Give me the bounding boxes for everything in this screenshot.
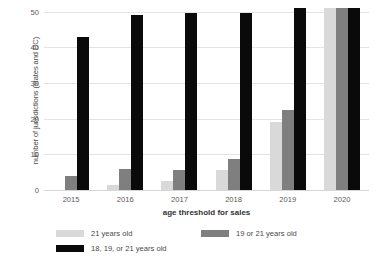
bar <box>173 170 185 190</box>
x-tick-label: 2020 <box>333 195 350 204</box>
bar <box>294 8 306 190</box>
legend-item[interactable]: 21 years old <box>56 226 201 241</box>
plot-area: 01020304050 201520162017201820192020 <box>44 8 369 190</box>
y-tick-label: 40 <box>31 43 39 52</box>
bar <box>65 176 77 190</box>
bar <box>185 13 197 190</box>
y-tick-label: 50 <box>31 7 39 16</box>
y-tick-label: 30 <box>31 78 39 87</box>
x-tick-label: 2016 <box>117 195 134 204</box>
bar-group: 2018 <box>207 8 261 190</box>
legend: 21 years old19 or 21 years old18, 19, or… <box>56 226 356 256</box>
y-tick-label: 10 <box>31 150 39 159</box>
legend-label: 18, 19, or 21 years old <box>91 244 167 253</box>
bar <box>131 15 143 190</box>
bar <box>161 181 173 190</box>
x-tick-label: 2018 <box>225 195 242 204</box>
y-tick-label: 0 <box>35 186 39 195</box>
legend-swatch <box>56 245 84 252</box>
legend-label: 19 or 21 years old <box>236 229 297 238</box>
x-tick-label: 2015 <box>63 195 80 204</box>
legend-item[interactable]: 18, 19, or 21 years old <box>56 241 256 256</box>
bar <box>228 159 240 190</box>
bar-group: 2019 <box>261 8 315 190</box>
bar <box>119 169 131 190</box>
bar <box>77 37 89 190</box>
y-axis-title: number of jurisdictions (states and DC) <box>31 6 40 196</box>
bar <box>107 185 119 190</box>
bar <box>216 170 228 190</box>
legend-swatch <box>56 230 84 237</box>
bar-groups: 201520162017201820192020 <box>44 8 369 190</box>
bar <box>240 13 252 190</box>
x-tick-label: 2017 <box>171 195 188 204</box>
bar <box>282 110 294 190</box>
legend-swatch <box>201 230 229 237</box>
legend-label: 21 years old <box>91 229 132 238</box>
y-tick-label: 20 <box>31 114 39 123</box>
bar <box>324 8 336 190</box>
bar <box>348 8 360 190</box>
gridline: 0 <box>44 190 369 191</box>
bar-group: 2017 <box>152 8 206 190</box>
legend-item[interactable]: 19 or 21 years old <box>201 226 351 241</box>
x-axis-title: age threshold for sales <box>44 208 369 217</box>
bar-group: 2016 <box>98 8 152 190</box>
bar-group: 2015 <box>44 8 98 190</box>
bar-chart: number of jurisdictions (states and DC) … <box>0 0 377 261</box>
bar-group: 2020 <box>315 8 369 190</box>
x-tick-label: 2019 <box>279 195 296 204</box>
bar <box>336 8 348 190</box>
bar <box>270 122 282 190</box>
